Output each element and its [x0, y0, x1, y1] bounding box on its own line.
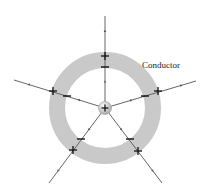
arrow-icon [104, 80, 107, 82]
conductor-label: Conductor [142, 60, 180, 70]
arrow-icon [104, 30, 107, 32]
conductor-diagram [0, 0, 204, 194]
